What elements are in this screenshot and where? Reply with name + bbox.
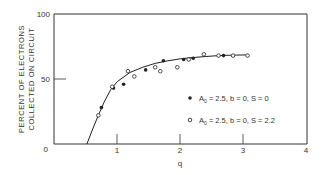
svg-text:A0 = 2.5, b = 0, S = 0: A0 = 2.5, b = 0, S = 0: [199, 94, 269, 104]
open-data-point: [159, 69, 163, 73]
x-axis-title: q: [178, 159, 182, 168]
open-data-point: [176, 66, 180, 70]
open-data-point: [217, 54, 221, 58]
open-data-point: [246, 54, 250, 58]
y-axis-title-line1: PERCENT OF ELECTRONS: [17, 25, 26, 133]
legend-rest: = 2.5, b = 0, S = 2.2: [207, 116, 275, 125]
series-open-markers: [97, 53, 250, 118]
y-axis-title-line2: COLLECTED ON CIRCUIT: [27, 28, 36, 131]
open-data-point: [126, 69, 130, 73]
filled-circle-icon: [188, 96, 192, 100]
x-tick-label-4: 4: [304, 146, 309, 155]
open-data-point: [133, 75, 137, 79]
open-data-point: [97, 114, 101, 118]
open-data-point: [187, 58, 191, 62]
y-tick-label-100: 100: [37, 10, 51, 19]
filled-data-point: [144, 68, 148, 72]
x-tick-label-1: 1: [115, 146, 120, 155]
chart: 100 50 0 1 2 3 4 q PERCENT OF ELECTRONS …: [0, 0, 321, 175]
open-data-point: [202, 53, 206, 57]
open-data-point: [110, 85, 114, 89]
svg-text:A0 = 2.5, b = 0, S = 2.2: A0 = 2.5, b = 0, S = 2.2: [199, 116, 275, 126]
filled-data-point: [122, 82, 126, 86]
filled-data-point: [162, 59, 166, 63]
axis-ticks: [54, 79, 243, 144]
open-circle-icon: [188, 118, 192, 122]
legend-rest: = 2.5, b = 0, S = 0: [207, 94, 269, 103]
open-data-point: [153, 66, 157, 70]
filled-data-point: [191, 56, 195, 60]
y-tick-label-50: 50: [41, 75, 50, 84]
legend-item-open: A0 = 2.5, b = 0, S = 2.2: [188, 116, 275, 126]
legend-item-filled: A0 = 2.5, b = 0, S = 0: [188, 94, 269, 104]
filled-data-point: [222, 54, 226, 58]
filled-data-point: [182, 58, 186, 62]
x-tick-label-2: 2: [178, 146, 183, 155]
legend: A0 = 2.5, b = 0, S = 0 A0 = 2.5, b = 0, …: [188, 94, 275, 126]
filled-data-point: [100, 106, 104, 110]
x-tick-label-3: 3: [241, 146, 246, 155]
open-data-point: [231, 54, 235, 58]
y-tick-label-0: 0: [44, 145, 49, 154]
